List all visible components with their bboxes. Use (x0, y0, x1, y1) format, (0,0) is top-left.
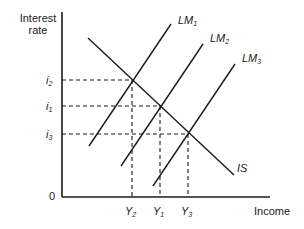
y-axis-label-line1: Interest (16, 12, 60, 24)
x-axis-label: Income (254, 205, 290, 217)
tick-i1-sub: 1 (48, 106, 52, 113)
y-axis-label-line2: rate (16, 24, 60, 36)
tick-i1: i1 (46, 100, 52, 116)
lm2-label-base: LM (210, 32, 225, 44)
lm2-label: LM2 (210, 32, 229, 48)
tick-y3-sub: 3 (188, 211, 192, 218)
lm3-label-base: LM (242, 52, 257, 64)
tick-i3: i3 (46, 128, 52, 144)
islm-diagram: Interest rate 0 Income i2 i1 i3 Y2 Y1 Y3… (0, 0, 304, 229)
tick-y2-sub: 2 (132, 211, 136, 218)
lm3-label-sub: 3 (257, 58, 261, 65)
tick-y3: Y3 (181, 205, 192, 221)
lm1-label-base: LM (178, 14, 193, 26)
tick-y1: Y1 (153, 205, 164, 221)
lm2-label-sub: 2 (225, 38, 229, 45)
tick-i3-sub: 3 (48, 134, 52, 141)
tick-i2: i2 (46, 74, 52, 90)
lm3-curve (153, 64, 235, 186)
is-label: IS (237, 162, 247, 174)
lm3-label: LM3 (242, 52, 261, 68)
tick-y2: Y2 (125, 205, 136, 221)
lm2-curve (121, 44, 203, 166)
lm1-label-sub: 1 (193, 20, 197, 27)
guide-lines (62, 80, 188, 197)
lm1-label: LM1 (178, 14, 197, 30)
tick-i2-sub: 2 (48, 80, 52, 87)
tick-y1-sub: 1 (160, 211, 164, 218)
y-axis-label: Interest rate (16, 12, 60, 36)
lm1-curve (89, 24, 171, 146)
origin-label: 0 (49, 190, 55, 202)
